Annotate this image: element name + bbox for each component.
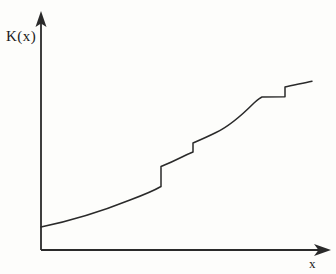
plot-area — [0, 0, 336, 274]
x-axis-label: x — [309, 256, 316, 272]
kx-curve — [41, 81, 312, 227]
y-axis-label: K(x) — [6, 28, 36, 45]
figure-canvas: K(x) x — [0, 0, 336, 274]
